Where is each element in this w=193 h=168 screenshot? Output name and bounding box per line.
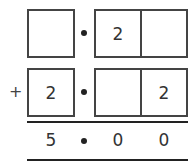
- plus-sign: +: [9, 84, 22, 100]
- result-tenths-digit: 0: [95, 132, 141, 149]
- row1-hundredths-box[interactable]: [140, 9, 188, 58]
- row2-ones-box[interactable]: 2: [27, 68, 75, 117]
- row2-hundredths-box[interactable]: 2: [140, 68, 188, 117]
- result-decimal-point: [81, 138, 87, 144]
- row1-decimal-point: [81, 30, 87, 36]
- row2-tenths-box[interactable]: [94, 68, 142, 117]
- row1-tenths-box[interactable]: 2: [94, 9, 142, 58]
- row1-ones-box[interactable]: [27, 9, 75, 58]
- sum-line-top: [27, 121, 188, 123]
- row2-decimal-point: [81, 89, 87, 95]
- sum-line-bottom: [27, 159, 188, 161]
- result-hundredths-digit: 0: [141, 132, 187, 149]
- result-ones-digit: 5: [28, 132, 74, 149]
